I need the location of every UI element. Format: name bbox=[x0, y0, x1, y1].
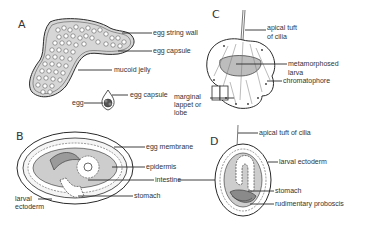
egg-string-illustration bbox=[30, 19, 134, 97]
label-egg-membrane: egg membrane bbox=[146, 143, 193, 151]
label-stomach-d: stomach bbox=[275, 187, 301, 195]
label-egg-string-wall: egg string wall bbox=[153, 29, 198, 37]
label-epidermis: epidermis bbox=[146, 163, 176, 171]
label-stomach: stomach bbox=[134, 192, 160, 200]
label-mucoid-jelly: mucoid jelly bbox=[114, 66, 151, 74]
label-marginal-line3: lobe bbox=[174, 109, 187, 117]
label-egg-capsule-single: egg capsule bbox=[130, 91, 168, 99]
label-rudimentary-proboscis: rudimentary proboscis bbox=[275, 200, 344, 208]
label-apical-tuft-line2: of cilia bbox=[267, 33, 287, 41]
label-apical-tuft-of-cilia: apical tuft of cilia bbox=[259, 129, 311, 137]
larva-in-egg-membrane-illustration bbox=[17, 132, 133, 204]
label-egg: egg bbox=[72, 99, 84, 107]
single-egg-capsule-illustration bbox=[102, 90, 114, 110]
panel-c-letter: C bbox=[212, 8, 220, 21]
panel-b-letter: B bbox=[16, 130, 24, 143]
label-marginal-line1: marginal bbox=[174, 93, 201, 101]
metamorphosing-larva-illustration bbox=[207, 10, 275, 108]
label-larval-ectoderm-line2: ectoderm bbox=[15, 203, 44, 211]
label-larval-ectoderm-line1: larval bbox=[15, 195, 32, 203]
label-chromatophore: chromatophore bbox=[283, 77, 330, 85]
label-metamorphosed-line1: metamorphosed bbox=[288, 60, 339, 68]
label-larval-ectoderm: larval ectoderm bbox=[279, 158, 327, 166]
label-egg-capsule: egg capsule bbox=[153, 47, 191, 55]
panel-a-letter: A bbox=[18, 18, 26, 31]
label-intestine: intestine bbox=[155, 176, 181, 184]
label-apical-tuft-line1: apical tuft bbox=[267, 24, 297, 32]
label-marginal-line2: lappet or bbox=[174, 101, 201, 109]
larva-ectoderm-illustration bbox=[215, 125, 271, 216]
panel-d-letter: D bbox=[210, 135, 218, 148]
label-metamorphosed-line2: larva bbox=[288, 69, 303, 77]
